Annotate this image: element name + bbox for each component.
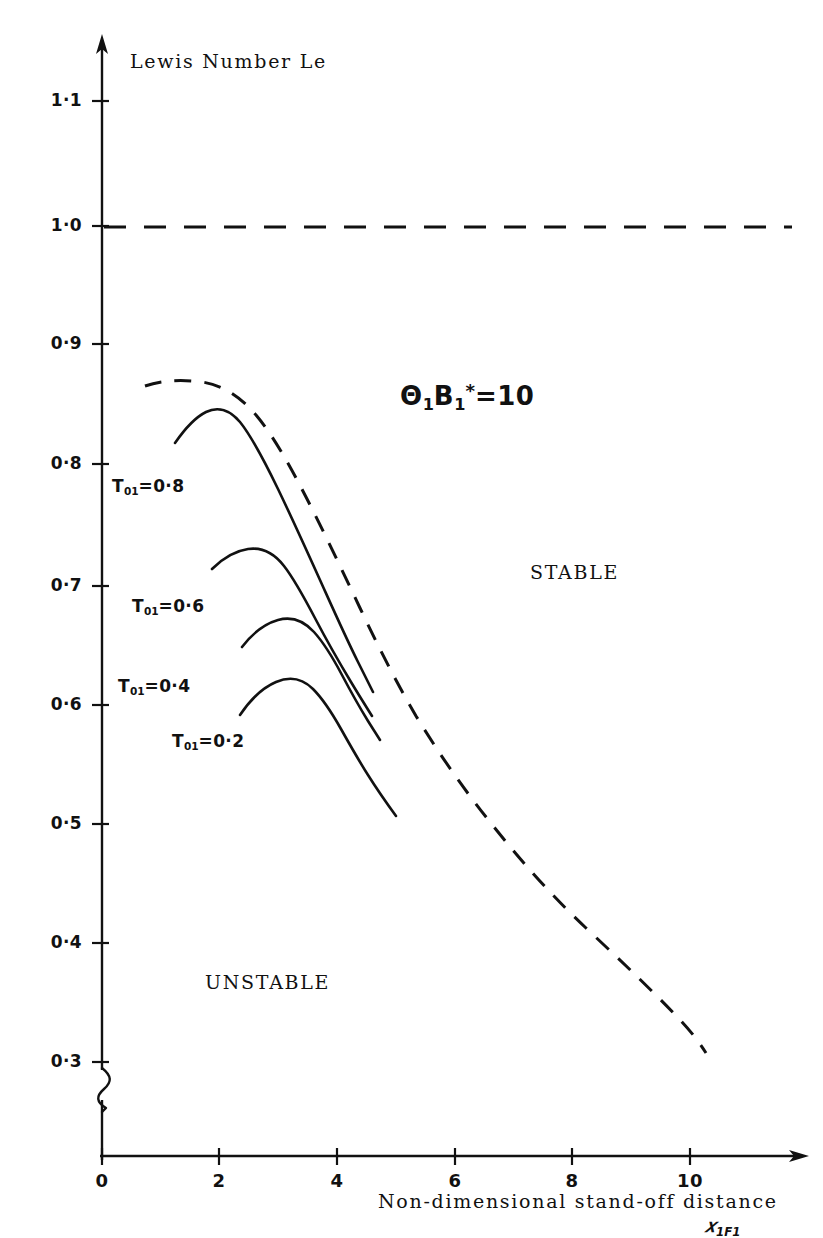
y-tick-label-0-3: 0·3 (24, 1053, 82, 1070)
curve-label-sub-08: 01 (124, 485, 139, 497)
x-tick-label-6: 6 (435, 1172, 475, 1190)
curve-label-t01-02: T01=0·2 (172, 733, 244, 752)
plot-area (0, 0, 823, 1238)
curve-label-val-04: =0·4 (145, 676, 191, 696)
curve-label-t01-06: T01=0·6 (132, 598, 204, 617)
x-tick-label-0: 0 (82, 1172, 122, 1190)
x-axis-title-subscript: 𝑥1F1 (705, 1216, 740, 1238)
curve-label-val-08: =0·8 (139, 476, 185, 496)
y-axis-title: Lewis Number Le (130, 52, 327, 71)
x-tick-label-10: 10 (670, 1172, 710, 1190)
curve-label-t01-04: T01=0·4 (118, 678, 190, 697)
series-envelope (145, 381, 706, 1053)
y-tick-label-0-7: 0·7 (24, 577, 82, 594)
series-T01_0_6 (212, 549, 372, 716)
y-tick-label-0-6: 0·6 (24, 696, 82, 713)
curve-label-t01-08: T01=0·8 (112, 478, 184, 497)
theta-glyph: Θ (400, 381, 423, 411)
annotation-equals-value: =10 (475, 381, 535, 411)
b-subscript: 1 (454, 395, 465, 414)
series-T01_0_4 (242, 619, 380, 740)
y-tick-label-1-1: 1·1 (24, 92, 82, 109)
curve-label-t-06: T (132, 596, 144, 616)
axis-break-icon (98, 1068, 110, 1112)
x-axis-sub-index: 1F1 (716, 1225, 740, 1238)
curve-label-sub-02: 01 (184, 740, 199, 752)
b-superscript-asterisk: * (465, 380, 475, 401)
curve-label-t-02: T (172, 731, 184, 751)
y-tick-label-0-9: 0·9 (24, 335, 82, 352)
parameter-annotation: Θ1B1*=10 (400, 382, 534, 413)
curve-label-val-06: =0·6 (159, 596, 205, 616)
b-glyph: B (434, 381, 454, 411)
chart-page: Lewis Number Le 1·1 1·0 0·9 0·8 0·7 0·6 … (0, 0, 823, 1238)
y-tick-label-0-4: 0·4 (24, 934, 82, 951)
theta-subscript: 1 (423, 395, 434, 414)
y-tick-label-0-8: 0·8 (24, 455, 82, 472)
x-axis-title: Non-dimensional stand-off distance (378, 1192, 778, 1211)
x-axis-sub-glyph: 𝑥 (705, 1214, 716, 1236)
series-T01_0_8 (175, 409, 373, 692)
x-tick-label-2: 2 (199, 1172, 239, 1190)
y-tick-label-1-0: 1·0 (24, 217, 82, 234)
unstable-region-label: UNSTABLE (205, 973, 330, 992)
stable-region-label: STABLE (530, 563, 619, 582)
curve-label-val-02: =0·2 (199, 731, 245, 751)
curve-label-t-08: T (112, 476, 124, 496)
x-tick-label-4: 4 (317, 1172, 357, 1190)
curve-label-sub-06: 01 (144, 605, 159, 617)
curve-label-sub-04: 01 (130, 685, 145, 697)
curve-label-t-04: T (118, 676, 130, 696)
x-tick-label-8: 8 (552, 1172, 592, 1190)
y-tick-label-0-5: 0·5 (24, 815, 82, 832)
y-tick-marks (92, 101, 109, 1062)
series-T01_0_2 (240, 679, 396, 816)
